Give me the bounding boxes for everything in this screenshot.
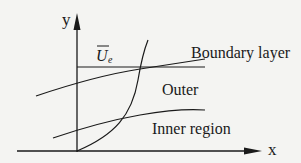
boundary-layer-label: Boundary layer bbox=[191, 44, 291, 62]
y-axis-arrow-icon bbox=[74, 13, 81, 30]
velocity-subscript: e bbox=[108, 54, 113, 65]
inner-region-label: Inner region bbox=[152, 120, 231, 138]
x-axis-arrow-icon bbox=[244, 148, 262, 155]
outer-region-label: Outer bbox=[162, 81, 199, 98]
boundary-layer-diagram: y x U e Boundary layer Outer Inner regio… bbox=[0, 0, 301, 163]
y-axis-label: y bbox=[62, 10, 71, 29]
x-axis-label: x bbox=[268, 140, 277, 159]
velocity-profile-curve bbox=[77, 40, 148, 151]
